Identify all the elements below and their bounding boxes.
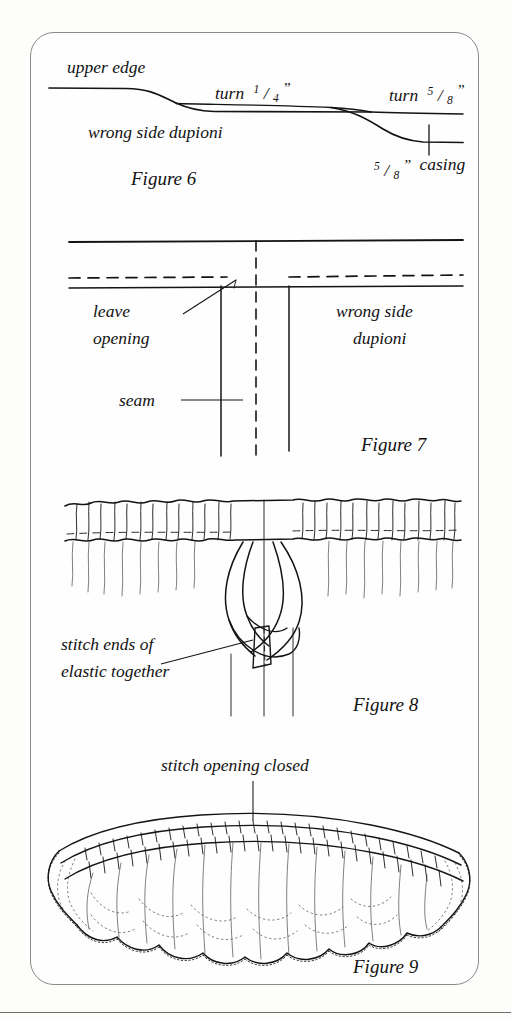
upper-edge-right-line bbox=[371, 112, 463, 114]
band-stitch-dashed-line bbox=[67, 530, 459, 534]
label-turn-quarter: turn 1 / 4 ” bbox=[215, 77, 291, 106]
stitch-line-left bbox=[69, 277, 227, 278]
gathered-band-top-edge bbox=[65, 499, 461, 506]
figure-8-drawing: stitch ends of elastic together Figure 8 bbox=[31, 468, 480, 733]
gather-strokes-band bbox=[76, 501, 455, 540]
label-seam: seam bbox=[119, 390, 155, 410]
label-wrong-side-dupioni: wrong side dupioni bbox=[88, 122, 223, 142]
figure-7-block: leave opening wrong side dupioni seam Fi… bbox=[31, 208, 480, 468]
label-casing: 5 / 8 ” casing bbox=[374, 154, 465, 183]
figure-6-block: upper edge turn 1 / 4 ” turn 5 / 8 ” wro… bbox=[31, 33, 480, 208]
gathered-band-bottom-edge bbox=[65, 538, 461, 541]
figure-6-caption: Figure 6 bbox=[130, 168, 197, 189]
figure-9-block: stitch opening closed bbox=[31, 733, 480, 986]
shirring-ticks-lower bbox=[89, 835, 441, 886]
fabric-drape-lines bbox=[72, 541, 453, 598]
page-bottom-rule bbox=[0, 1012, 511, 1013]
label-turn-five-eighths: turn 5 / 8 ” bbox=[389, 79, 465, 108]
label-wrong-side: wrong side bbox=[336, 301, 413, 321]
figure-8-block: stitch ends of elastic together Figure 8 bbox=[31, 468, 480, 733]
upper-edge-line bbox=[49, 88, 371, 112]
label-stitch-ends-of: stitch ends of bbox=[61, 634, 155, 654]
label-upper-edge: upper edge bbox=[67, 57, 145, 77]
elastic-loop-inner-left bbox=[243, 542, 269, 646]
elastic-loop-inner-right bbox=[251, 542, 283, 652]
leave-opening-leader-line bbox=[183, 280, 236, 314]
figure-7-caption: Figure 7 bbox=[360, 434, 428, 455]
label-dupioni: dupioni bbox=[353, 328, 407, 348]
figure-7-drawing: leave opening wrong side dupioni seam Fi… bbox=[31, 208, 480, 468]
illustration-card: upper edge turn 1 / 4 ” turn 5 / 8 ” wro… bbox=[30, 32, 479, 985]
waistband-top-edge bbox=[59, 813, 459, 853]
page-canvas: upper edge turn 1 / 4 ” turn 5 / 8 ” wro… bbox=[0, 0, 511, 1019]
elastic-loop-outer-right bbox=[267, 542, 302, 660]
waistband-bottom-edge bbox=[65, 841, 463, 881]
figure-6-drawing: upper edge turn 1 / 4 ” turn 5 / 8 ” wro… bbox=[31, 33, 480, 208]
label-opening: opening bbox=[93, 328, 150, 348]
label-elastic-together: elastic together bbox=[61, 661, 170, 681]
casing-lower-edge-line bbox=[69, 286, 463, 288]
label-leave: leave bbox=[93, 301, 130, 321]
label-stitch-opening-closed: stitch opening closed bbox=[161, 755, 309, 775]
stitch-ends-leader-line bbox=[161, 640, 253, 664]
figure-9-caption: Figure 9 bbox=[352, 956, 419, 977]
skirt-fold-lines bbox=[87, 843, 427, 959]
figure-8-caption: Figure 8 bbox=[352, 694, 419, 715]
top-edge-line bbox=[69, 240, 463, 242]
stitch-line-right bbox=[289, 275, 463, 277]
figure-9-drawing: stitch opening closed bbox=[31, 733, 480, 986]
